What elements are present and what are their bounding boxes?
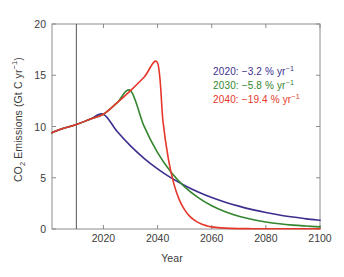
legend-item-2040-superscript: −1 — [291, 92, 300, 101]
legend-item-2030-superscript: −1 — [286, 78, 295, 87]
legend-item-2040-year: 2040: — [213, 94, 239, 105]
x-tick-label-2100: 2100 — [308, 232, 331, 244]
series-line-2030 — [52, 90, 320, 227]
y-axis-title-post: ) — [11, 57, 23, 61]
x-tick-label-2080: 2080 — [254, 232, 277, 244]
legend-item-2030: 2030: −5.8 % yr−1 — [213, 78, 294, 91]
legend-item-2020: 2020: −3.2 % yr−1 — [213, 64, 294, 77]
axes-frame — [52, 24, 320, 229]
x-tick-label-2040: 2040 — [146, 232, 169, 244]
legend-item-2040: 2040: −19.4 % yr−1 — [213, 92, 300, 105]
legend-item-2030-year: 2030: — [213, 80, 239, 91]
x-tick-label-2020: 2020 — [92, 232, 115, 244]
series-line-2020 — [52, 114, 320, 221]
chart-plot-area — [0, 0, 344, 277]
y-axis-title-subscript: 2 — [18, 162, 27, 166]
legend-item-2040-rate: −19.4 % yr — [239, 94, 292, 105]
y-tick-label-0: 0 — [22, 223, 46, 235]
y-axis-title-pre: CO — [11, 166, 23, 182]
chart-figure: 2020 2040 2060 2080 2100 0 5 10 15 20 Ye… — [0, 0, 344, 277]
legend-item-2020-superscript: −1 — [286, 64, 295, 73]
y-axis-title-mid: Emissions (Gt C yr — [11, 69, 23, 161]
x-tick-label-2060: 2060 — [200, 232, 223, 244]
legend-item-2020-rate: −3.2 % yr — [239, 66, 286, 77]
y-axis-title-superscript: −1 — [10, 61, 19, 70]
y-axis-title: CO2 Emissions (Gt C yr−1) — [10, 57, 27, 182]
legend-item-2030-rate: −5.8 % yr — [239, 80, 286, 91]
legend-item-2020-year: 2020: — [213, 66, 239, 77]
x-axis-title: Year — [0, 252, 344, 264]
y-axis-title-wrapper: CO2 Emissions (Gt C yr−1) — [7, 15, 26, 225]
y-axis-ticks — [52, 24, 320, 229]
